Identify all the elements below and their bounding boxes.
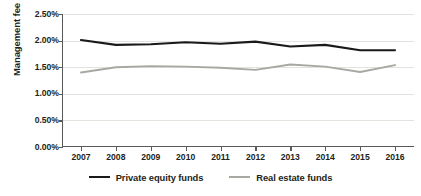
legend-swatch-icon [89, 176, 110, 178]
y-tick-label: 2.50% [15, 10, 59, 19]
x-tick-mark [116, 147, 117, 151]
y-tick-label: 2.00% [15, 36, 59, 45]
x-tick-mark [325, 147, 326, 151]
plot-area [62, 14, 414, 147]
legend-item[interactable]: Private equity funds [89, 172, 204, 183]
x-tick-mark [186, 147, 187, 151]
series-line [81, 65, 395, 73]
x-tick-mark [360, 147, 361, 151]
y-tick-label: 0.50% [15, 116, 59, 125]
x-tick-mark [290, 147, 291, 151]
x-tick-mark [395, 147, 396, 151]
series-line [81, 40, 395, 50]
x-tick-mark [221, 147, 222, 151]
legend-swatch-icon [229, 176, 250, 178]
legend-label: Private equity funds [116, 172, 204, 183]
chart-legend: Private equity fundsReal estate funds [0, 168, 421, 186]
x-axis-tick-labels: 2007200820092010201120122013201420152016 [62, 152, 414, 168]
management-fee-line-chart: Management fee 0.00%0.50%1.00%1.50%2.00%… [0, 0, 421, 196]
legend-label: Real estate funds [256, 172, 332, 183]
y-tick-label: 1.00% [15, 89, 59, 98]
y-axis-tick-labels: 0.00%0.50%1.00%1.50%2.00%2.50% [13, 0, 59, 196]
x-tick-mark [151, 147, 152, 151]
x-tick-mark [255, 147, 256, 151]
x-tick-label: 2016 [375, 152, 415, 162]
y-tick-label: 0.00% [15, 143, 59, 152]
y-tick-mark [59, 147, 63, 148]
legend-item[interactable]: Real estate funds [229, 172, 332, 183]
y-tick-label: 1.50% [15, 63, 59, 72]
x-tick-mark [81, 147, 82, 151]
series-lines [62, 14, 414, 147]
